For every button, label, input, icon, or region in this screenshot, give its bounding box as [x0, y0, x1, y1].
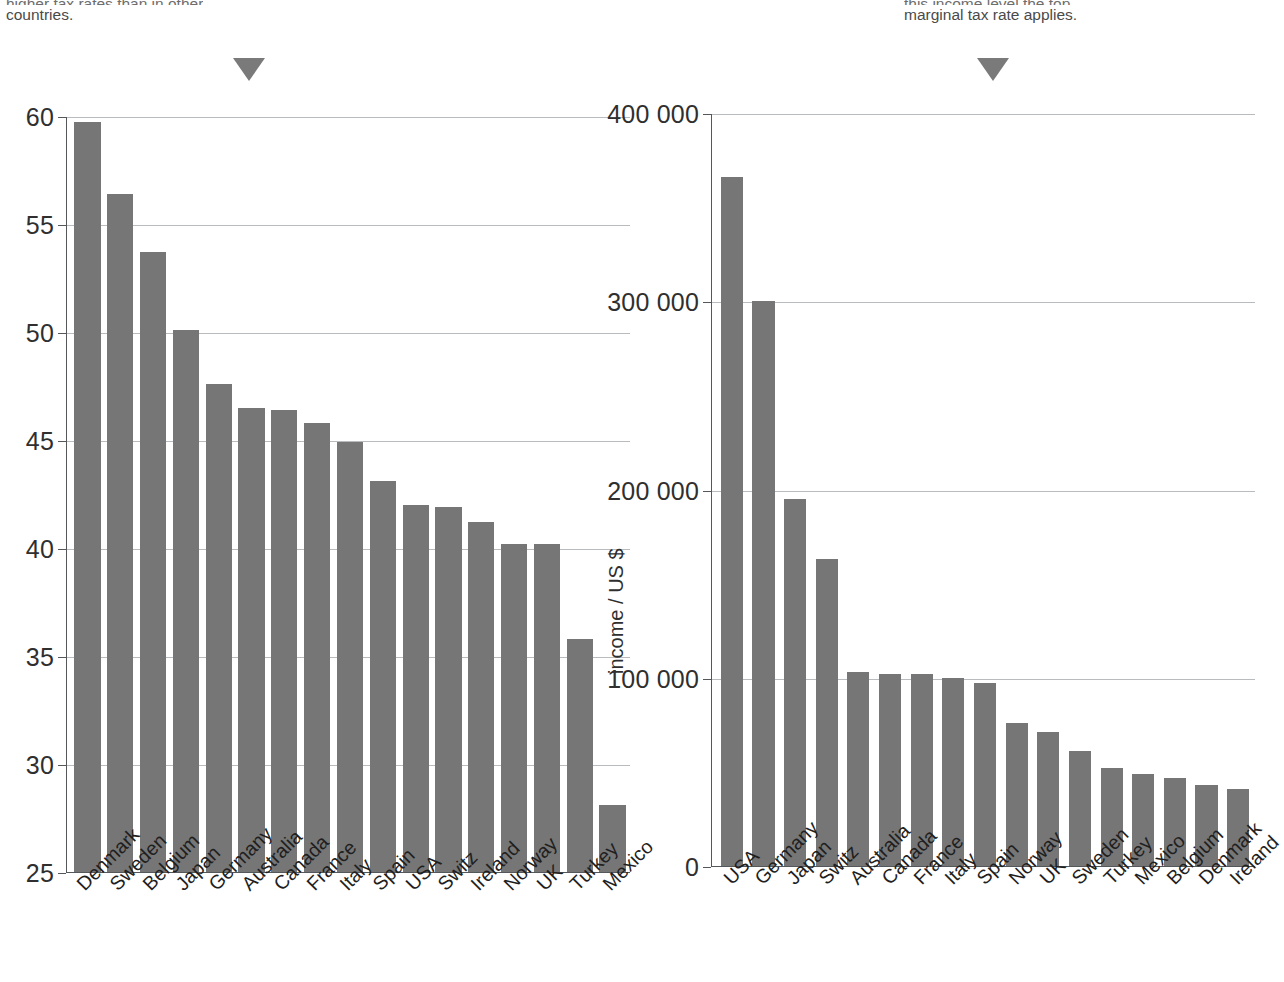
caption-right-clipped-line: this income level the top — [904, 0, 1077, 5]
y-axis-tick-label: 25 — [26, 859, 54, 888]
caption-left: higher tax rates than in other countries… — [6, 0, 203, 25]
y-axis-tick — [58, 657, 66, 658]
y-axis-tick — [703, 302, 711, 303]
y-axis-tick — [58, 549, 66, 550]
y-axis-tick — [703, 114, 711, 115]
y-axis-tick-label: 35 — [26, 643, 54, 672]
bar — [271, 410, 297, 872]
bar — [501, 544, 527, 872]
bar — [847, 672, 869, 866]
y-axis-tick-label: 40 — [26, 535, 54, 564]
bar — [752, 301, 774, 866]
y-axis-tick — [58, 765, 66, 766]
bar — [238, 408, 264, 872]
y-axis-tick — [703, 867, 711, 868]
bar — [173, 330, 199, 872]
bar — [140, 252, 166, 872]
y-axis-tick — [58, 117, 66, 118]
triangle-down-icon — [233, 58, 265, 81]
bar — [107, 194, 133, 872]
y-axis-tick-label: 300 000 — [607, 288, 699, 317]
y-axis-tick-label: 60 — [26, 103, 54, 132]
y-axis-tick — [58, 333, 66, 334]
bar — [974, 683, 996, 866]
caption-left-text: countries. — [6, 6, 73, 23]
y-axis-tick — [703, 491, 711, 492]
bar — [435, 507, 461, 872]
tax-rate-chart: 2530354045505560DenmarkSwedenBelgiumJapa… — [66, 117, 630, 873]
y-axis-tick-label: 0 — [685, 853, 699, 882]
plot-area: 0100 000200 000300 000400 000 — [711, 114, 1255, 867]
bar — [304, 423, 330, 872]
income-threshold-chart: 0100 000200 000300 000400 000USAGermanyJ… — [711, 114, 1255, 867]
y-axis-tick-label: 45 — [26, 427, 54, 456]
plot-area: 2530354045505560 — [66, 117, 630, 873]
y-axis-tick-label: 200 000 — [607, 476, 699, 505]
caption-right: this income level the top marginal tax r… — [904, 0, 1077, 25]
bar — [468, 522, 494, 872]
bar — [721, 177, 743, 866]
bar — [337, 442, 363, 872]
y-axis-title: income / US $ — [605, 548, 628, 674]
bar — [206, 384, 232, 872]
bar — [403, 505, 429, 872]
caption-right-text: marginal tax rate applies. — [904, 6, 1077, 23]
bar — [816, 559, 838, 866]
bar — [1069, 751, 1091, 866]
triangle-down-icon — [977, 58, 1009, 81]
caption-left-clipped-line: higher tax rates than in other — [6, 0, 203, 5]
y-axis-tick — [58, 225, 66, 226]
y-axis-tick — [58, 873, 66, 874]
x-axis-labels: USAGermanyJapanSwitzAustraliaCanadaFranc… — [711, 873, 1255, 982]
bar-series — [712, 114, 1255, 866]
bar — [534, 544, 560, 872]
y-axis-tick-label: 50 — [26, 319, 54, 348]
x-axis-labels: DenmarkSwedenBelgiumJapanGermanyAustrali… — [66, 879, 630, 982]
y-axis-tick — [703, 679, 711, 680]
y-axis-tick — [58, 441, 66, 442]
y-axis-tick-label: 55 — [26, 211, 54, 240]
y-axis-tick-label: 30 — [26, 751, 54, 780]
bar — [567, 639, 593, 872]
y-axis-tick-label: 400 000 — [607, 100, 699, 129]
bar-series — [67, 117, 630, 872]
bar — [784, 499, 806, 866]
bar — [370, 481, 396, 872]
bar — [74, 122, 100, 872]
